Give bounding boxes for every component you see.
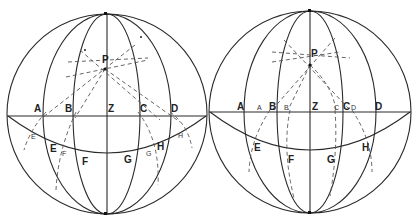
right-small-d: D — [351, 104, 356, 111]
right-label-d: D — [375, 101, 382, 112]
right-small-b: B — [284, 104, 289, 111]
left-meridian-c — [107, 14, 140, 214]
left-label-z: Z — [108, 103, 114, 114]
left-small-e: E — [31, 133, 36, 140]
left-label-p: P — [102, 54, 109, 65]
right-label-p: P — [311, 48, 318, 59]
left-small-h: H — [178, 132, 183, 139]
left-label-d: D — [171, 103, 178, 114]
left-meridian-b — [73, 14, 107, 214]
globe-diagrams: P A B Z C D E F G H E F G H — [0, 0, 414, 221]
left-label-f: F — [82, 156, 88, 167]
left-small-f: F — [62, 150, 66, 157]
right-label-f: F — [288, 154, 294, 165]
right-label-g: G — [327, 154, 335, 165]
right-label-e: E — [254, 142, 261, 153]
left-label-a: A — [34, 103, 41, 114]
right-label-z: Z — [312, 101, 318, 112]
right-pole-point — [308, 63, 311, 66]
left-globe: P A B Z C D E F G H E F G H — [7, 12, 207, 215]
right-label-h: H — [362, 142, 369, 153]
right-small-c: C — [334, 104, 339, 111]
right-small-a: A — [257, 104, 262, 111]
left-label-h: H — [157, 141, 164, 152]
left-label-b: B — [65, 103, 72, 114]
left-label-c: C — [140, 103, 147, 114]
right-globe: P A B Z C D A B C D E F G H — [209, 9, 411, 214]
left-label-g: G — [124, 154, 132, 165]
left-small-g: G — [146, 150, 151, 157]
right-label-c: C — [343, 101, 350, 112]
left-pole-point — [103, 67, 106, 70]
left-label-e: E — [50, 143, 57, 154]
right-label-b: B — [269, 101, 276, 112]
left-construction-lines — [24, 45, 192, 190]
right-label-a: A — [237, 101, 244, 112]
